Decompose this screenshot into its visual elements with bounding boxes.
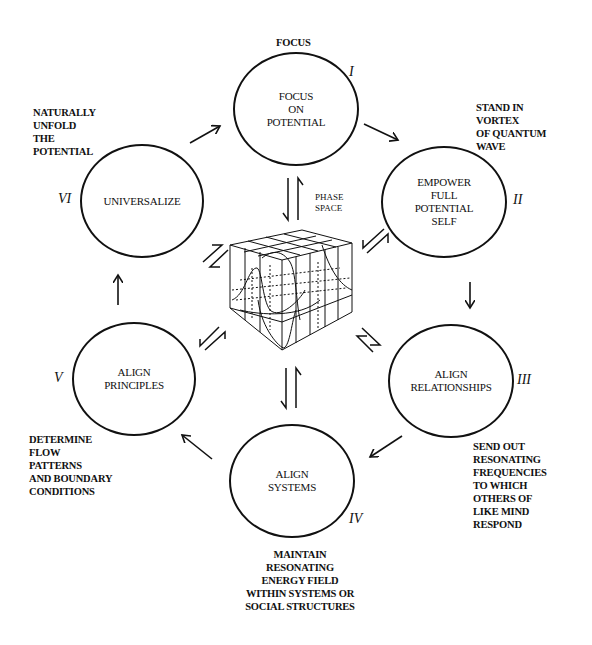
node-v-align-principles[interactable]: ALIGN PRINCIPLES [72,322,196,436]
note-v-determine-flow: DETERMINE FLOW PATTERNS AND BOUNDARY CON… [29,433,112,498]
node-i-numeral: I [349,64,354,80]
node-iii-numeral: III [517,372,531,388]
arrow-iv-to-v [182,435,212,459]
harpoon-pair-ii [363,229,388,253]
node-v-numeral: V [54,370,63,386]
node-i-focus-on-potential[interactable]: FOCUS ON POTENTIAL [233,52,359,166]
harpoon-pair-iv [281,368,301,408]
harpoon-pair-vi [203,245,228,267]
node-ii-label: EMPOWER FULL POTENTIAL SELF [415,176,474,228]
note-ii-stand-in-vortex: STAND IN VORTEX OF QUANTUM WAVE [476,101,546,153]
phase-space-cube-icon [230,230,352,350]
node-ii-empower-full-potential-self[interactable]: EMPOWER FULL POTENTIAL SELF [381,146,507,258]
node-v-label: ALIGN PRINCIPLES [104,366,164,392]
node-iv-align-systems[interactable]: ALIGN SYSTEMS [229,424,355,538]
node-iii-align-relationships[interactable]: ALIGN RELATIONSHIPS [388,324,514,438]
node-i-label: FOCUS ON POTENTIAL [267,90,326,129]
node-iv-numeral: IV [349,511,362,527]
note-iii-send-out-frequencies: SEND OUT RESONATING FREQUENCIES TO WHICH… [473,440,547,531]
harpoon-pair-iii [357,328,380,352]
node-iv-label: ALIGN SYSTEMS [268,468,316,494]
note-vi-naturally-unfold: NATURALLY UNFOLD THE POTENTIAL [33,106,96,158]
node-vi-numeral: VI [58,191,71,207]
node-vi-universalize[interactable]: UNIVERSALIZE [80,144,204,258]
top-focus-label: FOCUS [276,36,311,49]
node-ii-numeral: II [513,192,522,208]
arrow-vi-to-i [190,126,220,143]
arrow-i-to-ii [364,124,398,140]
note-iv-maintain-energy-field: MAINTAIN RESONATING ENERGY FIELD WITHIN … [200,548,400,613]
harpoon-pair-i [283,178,303,220]
phase-space-label: PHASE SPACE [315,192,344,214]
arrow-iii-to-iv [370,436,402,457]
node-vi-label: UNIVERSALIZE [103,195,180,208]
node-iii-label: ALIGN RELATIONSHIPS [410,368,491,394]
harpoon-pair-v [200,327,225,350]
